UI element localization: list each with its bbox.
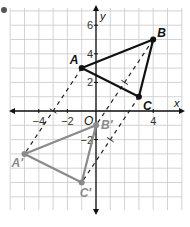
y-tick-label: 2 [87,76,93,88]
y-tick-label: 4 [87,48,93,60]
triangle-abc-vertex [79,65,85,71]
translation-diagram: xyO−4−24642−2ABCA′B′C′ [0,0,190,227]
triangle-image-vertex-label: B′ [101,118,114,132]
x-tick-label: −4 [33,115,46,127]
triangle-abc-vertex-label: A [69,53,79,67]
x-axis-label: x [173,97,180,109]
coordinate-plane-figure: xyO−4−24642−2ABCA′B′C′ [0,0,190,227]
triangle-abc-vertex [136,94,142,100]
triangle-image-vertex-label: A′ [11,156,25,170]
triangle-image-vertex [93,122,99,128]
x-tick-label: 4 [150,115,156,127]
y-axis-label: y [99,10,107,22]
y-tick-label: 6 [87,19,93,31]
x-tick-label: −2 [61,115,74,127]
bullet-icon [1,7,7,13]
y-axis-up-arrow-icon [93,5,99,11]
y-axis-down-arrow-icon [93,209,99,215]
triangle-abc-vertex [150,37,156,43]
triangle-abc-vertex-label: B [157,26,166,40]
triangle-abc-vertex-label: C [143,99,152,113]
triangle-image-vertex-label: C′ [80,186,93,200]
